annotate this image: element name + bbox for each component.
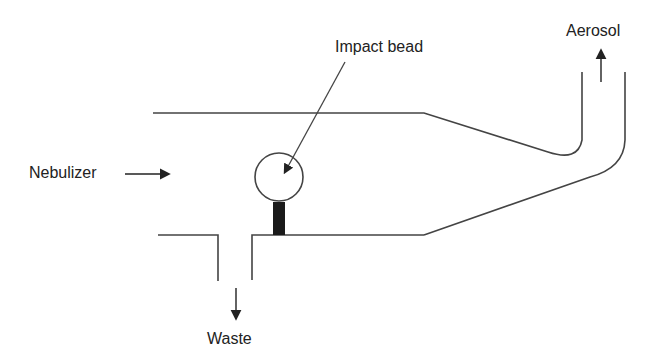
lower-left-wall xyxy=(158,235,218,281)
outer-outlet-wall xyxy=(424,72,625,235)
impact-bead-label: Impact bead xyxy=(335,39,423,55)
waste-label: Waste xyxy=(207,331,252,347)
lower-chamber-wall xyxy=(252,235,424,280)
nebulizer-label: Nebulizer xyxy=(29,165,97,181)
aerosol-label: Aerosol xyxy=(566,23,620,39)
bead-stem xyxy=(273,202,285,235)
upper-chamber-wall xyxy=(153,72,582,155)
impact-bead-pointer-arrow xyxy=(285,62,345,172)
impact-bead xyxy=(255,153,303,201)
